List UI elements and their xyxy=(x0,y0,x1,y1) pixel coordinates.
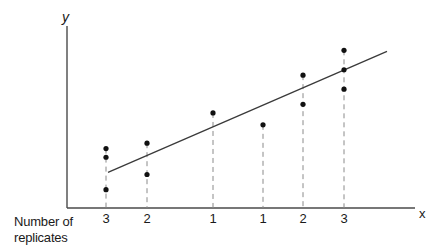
data-point xyxy=(144,141,149,146)
data-point xyxy=(103,146,108,151)
dashed-drop-lines xyxy=(106,50,344,208)
data-point xyxy=(300,73,305,78)
tick-label: 3 xyxy=(340,211,347,226)
data-point xyxy=(300,102,305,107)
data-point xyxy=(210,110,215,115)
replicates-label-line-1: Number of xyxy=(14,214,73,230)
replicates-row-label: Number of replicates xyxy=(14,214,73,246)
data-point xyxy=(341,87,346,92)
data-point xyxy=(103,187,108,192)
replicate-tick-labels: 3 2 1 1 2 3 xyxy=(102,211,347,226)
data-point xyxy=(341,67,346,72)
tick-label: 1 xyxy=(259,211,266,226)
data-point xyxy=(341,48,346,53)
tick-label: 3 xyxy=(102,211,109,226)
data-points xyxy=(103,48,346,193)
data-point xyxy=(103,155,108,160)
replicates-label-line-2: replicates xyxy=(14,230,73,246)
scatter-chart: y x 3 2 1 1 2 3 xyxy=(0,0,439,248)
tick-label: 2 xyxy=(143,211,150,226)
data-point xyxy=(260,122,265,127)
x-axis-label: x xyxy=(419,206,426,221)
tick-label: 2 xyxy=(299,211,306,226)
data-point xyxy=(144,172,149,177)
tick-label: 1 xyxy=(209,211,216,226)
y-axis-label: y xyxy=(61,9,70,25)
